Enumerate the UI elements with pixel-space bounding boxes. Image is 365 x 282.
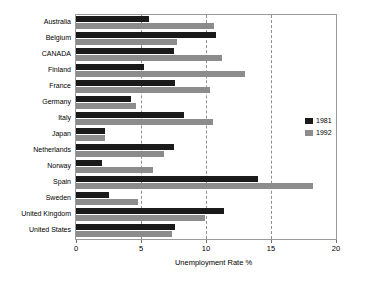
x-axis-title-text: Unemployment Rate %: [175, 258, 252, 267]
category-label: CANADA: [0, 50, 71, 58]
category-label: Australia: [0, 18, 71, 26]
x-axis-ticks: 05101520: [75, 240, 337, 254]
bar-1992: [76, 119, 213, 125]
category-label: Japan: [0, 130, 71, 138]
category-label: Sweden: [0, 194, 71, 202]
category-label: Germany: [0, 98, 71, 106]
category-label: Norway: [0, 162, 71, 170]
bar-1981: [76, 160, 102, 166]
bar-1981: [76, 112, 184, 118]
bar-1981: [76, 176, 258, 182]
x-axis-title: Unemployment Rate %: [0, 258, 365, 267]
bar-1981: [76, 64, 144, 70]
bar-1992: [76, 55, 222, 61]
bar-1992: [76, 103, 136, 109]
category-label: Italy: [0, 114, 71, 122]
bar-rows: [76, 15, 336, 239]
bar-1981: [76, 144, 174, 150]
category-label: Belgium: [0, 34, 71, 42]
category-label: United States: [0, 226, 71, 234]
bar-1992: [76, 231, 172, 237]
legend-swatch-1992: [305, 130, 313, 136]
x-tick-label: 0: [74, 244, 78, 253]
bar-1981: [76, 128, 105, 134]
x-tick-label: 15: [267, 244, 275, 253]
legend-label-1981: 1981: [316, 117, 332, 125]
plot-area: [75, 14, 337, 240]
bar-row: [76, 192, 336, 208]
bar-row: [76, 48, 336, 64]
x-tick-mark: [206, 240, 207, 243]
bar-1981: [76, 96, 131, 102]
bar-row: [76, 144, 336, 160]
bar-1992: [76, 167, 153, 173]
bar-row: [76, 160, 336, 176]
category-label: France: [0, 82, 71, 90]
bar-1981: [76, 32, 216, 38]
legend-label-1992: 1992: [316, 129, 332, 137]
category-axis-labels: AustraliaBelgiumCANADAFinlandFranceGerma…: [0, 14, 71, 240]
x-tick-label: 10: [202, 244, 210, 253]
x-tick-label: 5: [139, 244, 143, 253]
bar-1981: [76, 80, 175, 86]
bar-1992: [76, 39, 177, 45]
x-tick-mark: [141, 240, 142, 243]
category-label: United Kingdom: [0, 210, 71, 218]
bar-1992: [76, 23, 214, 29]
legend: 19811992: [305, 116, 357, 140]
bar-row: [76, 128, 336, 144]
bar-row: [76, 224, 336, 240]
bar-1992: [76, 71, 245, 77]
legend-entry-1992[interactable]: 1992: [305, 128, 357, 138]
bar-1981: [76, 208, 224, 214]
bar-1992: [76, 215, 205, 221]
category-label: Finland: [0, 66, 71, 74]
x-tick-mark: [336, 240, 337, 243]
x-tick-mark: [76, 240, 77, 243]
legend-swatch-1981: [305, 118, 313, 124]
unemployment-rate-bar-chart: AustraliaBelgiumCANADAFinlandFranceGerma…: [0, 0, 365, 282]
legend-entry-1981[interactable]: 1981: [305, 116, 357, 126]
bar-1992: [76, 135, 105, 141]
x-tick-mark: [271, 240, 272, 243]
bar-1992: [76, 183, 313, 189]
bar-1992: [76, 151, 164, 157]
bar-row: [76, 32, 336, 48]
bar-row: [76, 80, 336, 96]
bar-1981: [76, 224, 175, 230]
bar-1981: [76, 48, 174, 54]
bar-1981: [76, 16, 149, 22]
bar-row: [76, 176, 336, 192]
bar-1992: [76, 87, 210, 93]
x-tick-label: 20: [332, 244, 340, 253]
category-label: Netherlands: [0, 146, 71, 154]
bar-row: [76, 16, 336, 32]
bar-row: [76, 208, 336, 224]
category-label: Spain: [0, 178, 71, 186]
bar-1992: [76, 199, 138, 205]
bar-row: [76, 64, 336, 80]
bar-row: [76, 96, 336, 112]
bar-1981: [76, 192, 109, 198]
bar-row: [76, 112, 336, 128]
